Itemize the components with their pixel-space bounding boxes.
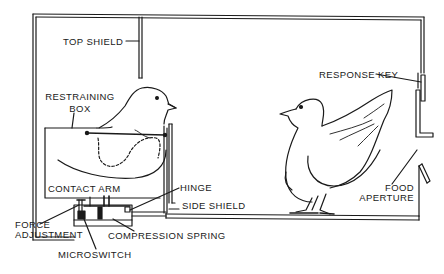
label-top-shield: TOP SHIELD <box>63 37 123 47</box>
label-hinge: HINGE <box>180 183 212 193</box>
label-food-aperture: FOOD APERTURE <box>356 183 414 203</box>
label-force-adjustment-line2: ADJUSTMENT <box>15 230 83 240</box>
label-force-adjustment: FORCE ADJUSTMENT <box>15 220 83 240</box>
label-restraining-box-line2: BOX <box>40 104 120 114</box>
label-food-aperture-line2: APERTURE <box>356 193 414 203</box>
label-contact-arm: CONTACT ARM <box>48 184 121 194</box>
label-restraining-box-line1: RESTRAINING <box>40 92 120 102</box>
food-aperture-pointer <box>392 150 417 184</box>
side-shield <box>164 124 179 218</box>
apparatus-diagram: TOP SHIELD RESTRAINING BOX RESPONSE KEY … <box>0 0 444 274</box>
label-response-key: RESPONSE KEY <box>319 70 398 80</box>
top-shield <box>126 17 142 78</box>
label-side-shield: SIDE SHIELD <box>182 201 246 211</box>
label-restraining-box: RESTRAINING BOX <box>40 92 120 114</box>
label-microswitch: MICROSWITCH <box>58 250 132 260</box>
label-compression-spring: COMPRESSION SPRING <box>108 231 226 241</box>
